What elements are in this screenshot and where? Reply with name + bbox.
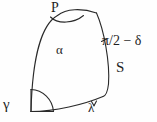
top-edge-curve (58, 10, 97, 16)
angle-arc-gamma (31, 90, 54, 112)
angle-label-lambda: λ (88, 101, 94, 114)
figure-canvas (0, 0, 157, 122)
geometry-figure: P α π/2 − δ S γ λ (0, 0, 157, 122)
tick-mark-lambda-b (94, 101, 97, 106)
side-label-s: S (116, 60, 124, 75)
right-edge-curve (97, 13, 109, 97)
angle-label-pi-half-minus-delta: π/2 − δ (102, 34, 141, 48)
vertex-label-p: P (51, 1, 59, 15)
left-edge-curve (31, 16, 58, 112)
angle-label-gamma: γ (3, 97, 10, 112)
angle-label-alpha: α (56, 43, 63, 56)
figure-outline-group (31, 10, 109, 112)
